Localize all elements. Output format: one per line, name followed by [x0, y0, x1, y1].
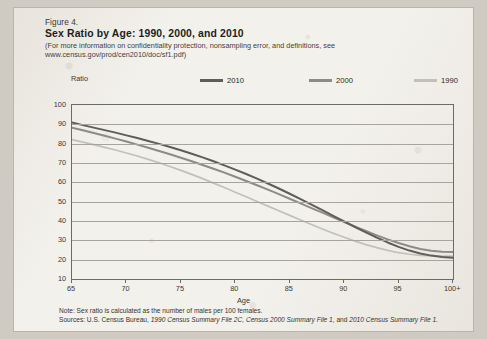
sources-line: Sources: U.S. Census Bureau, 1990 Census…: [59, 315, 464, 324]
x-axis-tick-label: 80: [230, 284, 238, 293]
legend-label-1990: 1990: [441, 76, 458, 85]
x-axis-tick-label: 100+: [444, 284, 460, 293]
x-axis-tick-label: 75: [176, 284, 184, 293]
legend-item-2010: 2010: [200, 76, 244, 85]
x-axis-tick-label: 70: [121, 284, 129, 293]
x-axis-tick-mark: [180, 280, 181, 283]
chart-legend: 2010 2000 1990: [71, 76, 454, 88]
y-axis-tick-label: 30: [46, 235, 66, 244]
report-page: Figure 4. Sex Ratio by Age: 1990, 2000, …: [14, 8, 473, 331]
x-axis-tick-mark: [125, 280, 126, 283]
legend-swatch-1990: [414, 79, 437, 82]
gridline: [72, 124, 453, 125]
gridline: [72, 221, 453, 222]
series-line-2000: [72, 128, 453, 252]
sources-italic-2: 2010 Census Summary File 1.: [349, 316, 438, 323]
sources-italic-1: 1990 Census Summary File 2C, Census 2000…: [151, 316, 335, 323]
legend-item-1990: 1990: [414, 76, 458, 85]
y-axis-tick-label: 90: [46, 119, 66, 128]
y-axis-tick-label: 20: [46, 255, 66, 264]
x-axis-tick-mark: [234, 280, 235, 283]
gridline: [72, 202, 453, 203]
x-axis-tick-mark: [71, 280, 72, 283]
y-axis-tick-label: 100: [46, 100, 66, 109]
gridline: [72, 182, 453, 183]
y-axis-tick-label: 40: [46, 216, 66, 225]
legend-swatch-2000: [309, 79, 332, 82]
figure-number: Figure 4.: [45, 18, 455, 27]
legend-label-2010: 2010: [227, 76, 244, 85]
x-axis-tick-mark: [452, 280, 453, 283]
x-axis-tick-label: 95: [394, 284, 402, 293]
y-axis-tick-label: 60: [46, 177, 66, 186]
y-axis-tick-label: 80: [46, 139, 66, 148]
gridline: [72, 163, 453, 164]
y-axis-tick-label: 10: [46, 274, 66, 283]
gridline: [72, 260, 453, 261]
legend-swatch-2010: [200, 79, 223, 82]
figure-notes: Note: Sex ratio is calculated as the num…: [59, 306, 464, 324]
figure-subtitle-line1: (For more information on confidentiality…: [45, 41, 335, 50]
figure-subtitle-line2: www.census.gov/prod/cen2010/doc/sf1.pdf): [45, 50, 186, 59]
x-axis-tick-label: 65: [67, 284, 75, 293]
gridline: [72, 144, 453, 145]
x-axis-tick-label: 90: [339, 284, 347, 293]
figure-header: Figure 4. Sex Ratio by Age: 1990, 2000, …: [45, 18, 455, 60]
x-axis-label: Age: [14, 296, 473, 305]
x-axis-tick-mark: [398, 280, 399, 283]
gridline: [72, 240, 453, 241]
x-axis-tick-mark: [343, 280, 344, 283]
series-line-1990: [72, 140, 453, 257]
sources-mid: and: [335, 316, 350, 323]
legend-item-2000: 2000: [309, 76, 353, 85]
y-axis-tick-label: 70: [46, 158, 66, 167]
legend-label-2000: 2000: [336, 76, 353, 85]
sources-prefix: Sources: U.S. Census Bureau,: [59, 316, 151, 323]
x-axis-tick-label: 85: [285, 284, 293, 293]
y-axis-tick-label: 50: [46, 197, 66, 206]
figure-title: Sex Ratio by Age: 1990, 2000, and 2010: [45, 28, 455, 39]
chart-lines: [72, 105, 453, 279]
chart-plot-area: [71, 104, 454, 280]
figure-subtitle: (For more information on confidentiality…: [45, 41, 455, 60]
x-axis-tick-mark: [289, 280, 290, 283]
note-line: Note: Sex ratio is calculated as the num…: [59, 306, 464, 315]
